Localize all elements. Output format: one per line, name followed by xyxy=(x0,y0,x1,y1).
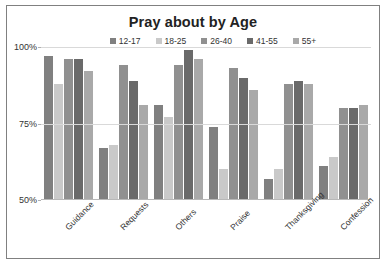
bar[interactable] xyxy=(139,105,148,200)
bar[interactable] xyxy=(109,145,118,200)
bar[interactable] xyxy=(359,105,368,200)
y-axis-label: 50% xyxy=(19,195,37,205)
legend-label: 55+ xyxy=(302,36,316,46)
legend-swatch-icon xyxy=(293,38,299,44)
category-label: Requests xyxy=(118,200,150,232)
chart-frame: Pray about by Age 12-1718-2526-4041-5555… xyxy=(6,5,380,259)
bar[interactable] xyxy=(184,50,193,200)
bar[interactable] xyxy=(304,84,313,200)
bar[interactable] xyxy=(209,127,218,200)
category-label: Guidance xyxy=(63,199,96,232)
bar[interactable] xyxy=(284,84,293,200)
bar[interactable] xyxy=(264,179,273,200)
bar[interactable] xyxy=(249,90,258,200)
legend-entry[interactable]: 12-17 xyxy=(110,36,141,46)
chart-title: Pray about by Age xyxy=(7,14,379,30)
bar[interactable] xyxy=(274,169,283,200)
bar[interactable] xyxy=(154,105,163,200)
bar[interactable] xyxy=(54,84,63,200)
bar[interactable] xyxy=(64,59,73,200)
plot-area: 50%75%100% xyxy=(41,47,371,200)
y-axis-tick xyxy=(38,47,41,48)
bar[interactable] xyxy=(294,81,303,200)
bar[interactable] xyxy=(129,81,138,200)
bar[interactable] xyxy=(164,117,173,200)
gridline xyxy=(41,47,371,48)
gridline xyxy=(41,124,371,125)
bar[interactable] xyxy=(119,65,128,200)
bar[interactable] xyxy=(174,65,183,200)
bar[interactable] xyxy=(194,59,203,200)
bar[interactable] xyxy=(239,78,248,200)
legend-entry[interactable]: 26-40 xyxy=(201,36,232,46)
category-label: Praise xyxy=(228,208,252,232)
bar[interactable] xyxy=(339,108,348,200)
bar[interactable] xyxy=(74,59,83,200)
chart-legend: 12-1718-2526-4041-5555+ xyxy=(7,36,379,46)
legend-entry[interactable]: 55+ xyxy=(293,36,316,46)
category-label: Confession xyxy=(338,195,375,232)
bar[interactable] xyxy=(99,148,108,200)
bar[interactable] xyxy=(44,56,53,200)
legend-swatch-icon xyxy=(201,38,207,44)
y-axis-label: 100% xyxy=(14,42,37,52)
legend-label: 26-40 xyxy=(210,36,232,46)
bar[interactable] xyxy=(219,169,228,200)
legend-label: 12-17 xyxy=(119,36,141,46)
legend-label: 41-55 xyxy=(256,36,278,46)
legend-entry[interactable]: 18-25 xyxy=(156,36,187,46)
y-axis-label: 75% xyxy=(19,119,37,129)
bar[interactable] xyxy=(329,157,338,200)
legend-swatch-icon xyxy=(110,38,116,44)
legend-entry[interactable]: 41-55 xyxy=(247,36,278,46)
y-axis-tick xyxy=(38,124,41,125)
y-axis-tick xyxy=(38,200,41,201)
category-axis-labels: GuidanceRequestsOthersPraiseThanksgiving… xyxy=(41,221,371,271)
legend-swatch-icon xyxy=(247,38,253,44)
legend-label: 18-25 xyxy=(165,36,187,46)
legend-swatch-icon xyxy=(156,38,162,44)
bar[interactable] xyxy=(229,68,238,200)
category-label: Others xyxy=(173,207,198,232)
bar[interactable] xyxy=(84,71,93,200)
bar[interactable] xyxy=(349,108,358,200)
